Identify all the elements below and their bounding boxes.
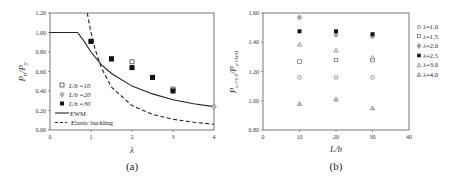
series-lambda-4-0 [297,97,374,110]
legend-label: λ=1.0 [423,23,438,30]
tick-label: 1.20 [36,10,47,16]
tick-label: 1.00 [249,98,260,104]
caption-a: (a) [126,160,139,173]
legend-label: λ=2.0 [423,42,438,49]
tick-label: 4 [213,134,216,140]
tick-label: 10 [297,134,303,140]
filled-square-icon [417,54,421,58]
legend-label: λ=4.0 [423,71,438,78]
legend-label: λ=3.0 [423,61,438,68]
legend-label: λ=1.5 [423,33,438,40]
y-axis-b: 1.60 1.40 1.20 1.00 0.80 [249,10,264,133]
diamond-icon [417,44,421,49]
hatched-triangle-icon [417,73,421,77]
tick-label: 0.40 [36,88,47,94]
legend-label: EWM [70,110,86,117]
x-axis-a: 0 1 2 3 4 [49,130,216,140]
y-axis-a: 1.20 1.00 0.80 0.60 0.40 0.20 0.00 [36,10,51,133]
open-square-icon [417,35,420,38]
y-axis-label-b: Pu-FEA/Pu-EWM [228,50,239,94]
series-lambda-3-0 [297,42,374,59]
open-circle-icon [417,25,420,28]
figure: 1.20 1.00 0.80 0.60 0.40 0.20 0.00 0 1 2… [0,0,454,183]
tick-label: 1 [90,134,93,140]
y-axis-label-a: Pu/Py [17,62,28,83]
x-axis-label-b: L/b [329,144,343,154]
filled-square-icon [60,102,64,106]
legend-label: λ=2.5 [423,52,438,59]
legend-label: L/b =20 [68,91,91,98]
tick-label: 30 [370,134,376,140]
tick-label: 2 [131,134,134,140]
legend-label: L/b =10 [68,82,91,89]
tick-label: 1.00 [36,30,47,36]
tick-label: 0.20 [36,108,47,114]
diamond-icon [60,92,64,97]
tick-label: 0.80 [249,127,260,133]
x-axis-b: 0 10 20 30 40 [262,130,413,140]
caption-b: (b) [330,160,343,173]
open-triangle-icon [417,63,421,67]
tick-label: 3 [172,134,175,140]
tick-label: 20 [333,134,339,140]
tick-label: 0.00 [36,127,47,133]
tick-label: 0.60 [36,69,47,75]
legend-label: Elastic buckling [71,119,114,126]
open-square-icon [60,83,64,87]
tick-label: 1.40 [249,39,260,45]
x-axis-label-a: λ [129,145,134,155]
tick-label: 0.80 [36,49,47,55]
tick-label: 0 [49,134,52,140]
chart-a: 1.20 1.00 0.80 0.60 0.40 0.20 0.00 0 1 2… [17,10,217,173]
series-lambda-2-0 [297,15,374,39]
series-lambda-1-0 [298,76,375,80]
series-lb30 [89,39,176,94]
tick-label: 40 [406,134,412,140]
legend-a: L/b =10 L/b =20 L/b =30 EWM Elastic buck… [55,82,114,127]
tick-label: 0 [262,134,265,140]
legend-b: λ=1.0 λ=1.5 λ=2.0 λ=2.5 λ=3.0 λ=4.0 [417,23,438,78]
tick-label: 1.20 [249,69,260,75]
tick-label: 1.60 [249,10,260,16]
legend-label: L/b =30 [68,100,91,107]
chart-b: 1.60 1.40 1.20 1.00 0.80 0 10 20 30 40 L… [228,10,438,173]
series-lambda-1-5 [298,58,375,63]
